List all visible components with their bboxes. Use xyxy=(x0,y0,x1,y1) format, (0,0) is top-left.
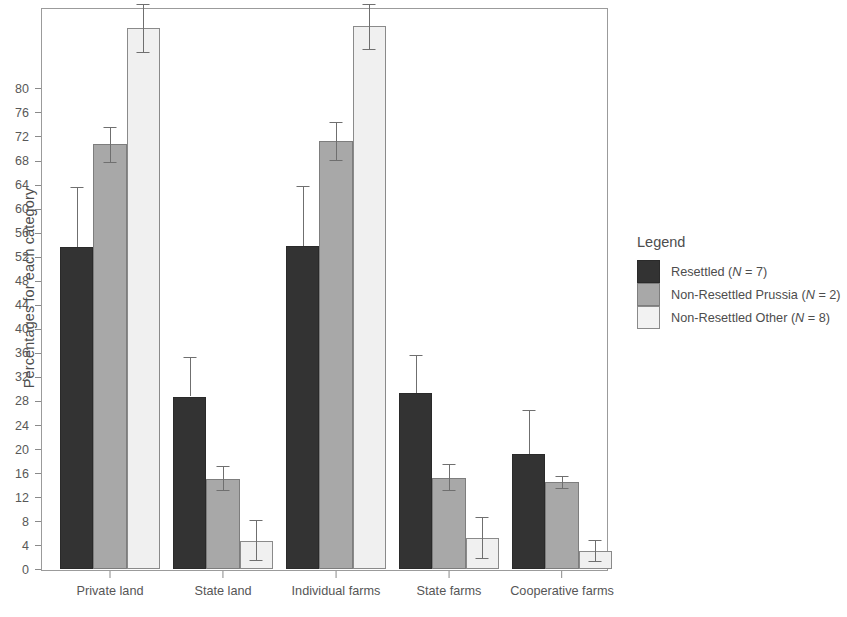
x-tick-mark xyxy=(222,571,223,578)
y-tick-label: 36 xyxy=(15,346,36,360)
y-tick: 24 xyxy=(15,416,41,434)
error-bar xyxy=(223,466,224,490)
y-tick-label: 64 xyxy=(15,178,36,192)
y-tick: 56 xyxy=(15,223,41,241)
y-tick: 40 xyxy=(15,320,41,338)
error-bar-cap xyxy=(330,122,343,123)
y-tick-mark xyxy=(35,209,41,210)
bar-chart-figure: Percentages for each category 0481216202… xyxy=(0,0,847,617)
y-tick-label: 24 xyxy=(15,419,36,433)
error-bar-cap xyxy=(137,4,150,5)
error-bar-cap xyxy=(589,540,602,541)
y-tick: 4 xyxy=(22,536,41,554)
error-bar-cap xyxy=(137,52,150,53)
y-tick-label: 4 xyxy=(22,539,36,553)
y-tick-label: 8 xyxy=(22,515,36,529)
bar xyxy=(60,247,93,569)
y-tick-label: 68 xyxy=(15,154,36,168)
error-bar xyxy=(416,355,417,393)
error-bar xyxy=(110,127,111,162)
error-bar-cap xyxy=(70,187,83,188)
plot-area: 048121620242832364044485256606468727680 … xyxy=(41,8,608,571)
bar xyxy=(286,246,319,569)
error-bar xyxy=(482,517,483,558)
y-tick-label: 48 xyxy=(15,274,36,288)
error-bar-cap xyxy=(476,558,489,559)
legend-item: Resettled (N = 7) xyxy=(637,260,847,283)
y-tick-mark xyxy=(35,377,41,378)
y-tick: 64 xyxy=(15,175,41,193)
error-bar xyxy=(595,540,596,561)
bar xyxy=(545,482,578,569)
x-tick-mark xyxy=(335,571,336,578)
error-bar-cap xyxy=(589,561,602,562)
y-tick: 60 xyxy=(15,199,41,217)
error-bar xyxy=(562,476,563,488)
legend-swatch xyxy=(637,260,660,283)
y-tick: 68 xyxy=(15,151,41,169)
error-bar-cap xyxy=(330,160,343,161)
y-tick-mark xyxy=(35,353,41,354)
error-bar-cap xyxy=(556,476,569,477)
legend-swatch xyxy=(637,283,660,306)
y-tick: 36 xyxy=(15,344,41,362)
y-tick-mark xyxy=(35,257,41,258)
y-tick-mark xyxy=(35,521,41,522)
y-tick-label: 52 xyxy=(15,250,36,264)
bar xyxy=(173,397,206,570)
error-bar xyxy=(336,122,337,160)
error-bar-cap xyxy=(250,560,263,561)
bar xyxy=(319,141,352,569)
error-bar xyxy=(77,187,78,248)
x-tick-label: Private land xyxy=(77,584,144,598)
y-tick: 72 xyxy=(15,127,41,145)
y-tick-mark xyxy=(35,497,41,498)
y-tick-mark xyxy=(35,233,41,234)
x-tick: State land xyxy=(194,571,251,598)
y-tick-mark xyxy=(35,88,41,89)
y-tick-label: 32 xyxy=(15,370,36,384)
error-bar-cap xyxy=(409,355,422,356)
y-tick-label: 0 xyxy=(22,563,36,577)
y-tick-mark xyxy=(35,425,41,426)
y-tick-label: 20 xyxy=(15,443,36,457)
error-bar-cap xyxy=(104,127,117,128)
y-tick-label: 72 xyxy=(15,130,36,144)
y-tick-mark xyxy=(35,449,41,450)
x-tick-mark xyxy=(562,571,563,578)
bar xyxy=(93,144,126,569)
legend-label: Non-Resettled Other (N = 8) xyxy=(671,311,830,325)
y-tick: 0 xyxy=(22,560,41,578)
error-bar-cap xyxy=(443,490,456,491)
x-tick-label: State land xyxy=(194,584,251,598)
error-bar xyxy=(369,4,370,49)
error-bar xyxy=(449,464,450,489)
y-tick-mark xyxy=(35,305,41,306)
y-tick: 76 xyxy=(15,103,41,121)
legend-label: Non-Resettled Prussia (N = 2) xyxy=(671,288,841,302)
x-tick-label: Individual farms xyxy=(292,584,381,598)
bar xyxy=(512,454,545,569)
y-tick-mark xyxy=(35,112,41,113)
bar xyxy=(432,478,465,569)
y-tick: 80 xyxy=(15,79,41,97)
error-bar xyxy=(190,357,191,396)
y-tick-label: 16 xyxy=(15,467,36,481)
error-bar-cap xyxy=(522,410,535,411)
y-tick-label: 40 xyxy=(15,322,36,336)
error-bar-cap xyxy=(556,488,569,489)
bar xyxy=(127,28,160,569)
error-bar-cap xyxy=(363,4,376,5)
y-tick-label: 60 xyxy=(15,202,36,216)
y-tick-mark xyxy=(35,545,41,546)
error-bar-cap xyxy=(363,49,376,50)
x-tick: Individual farms xyxy=(292,571,381,598)
legend: Legend Resettled (N = 7)Non-Resettled Pr… xyxy=(637,234,847,329)
y-tick: 20 xyxy=(15,440,41,458)
bar xyxy=(206,479,239,569)
error-bar-cap xyxy=(476,517,489,518)
legend-item: Non-Resettled Other (N = 8) xyxy=(637,306,847,329)
y-tick: 8 xyxy=(22,512,41,530)
y-tick: 16 xyxy=(15,464,41,482)
y-tick-mark xyxy=(35,161,41,162)
